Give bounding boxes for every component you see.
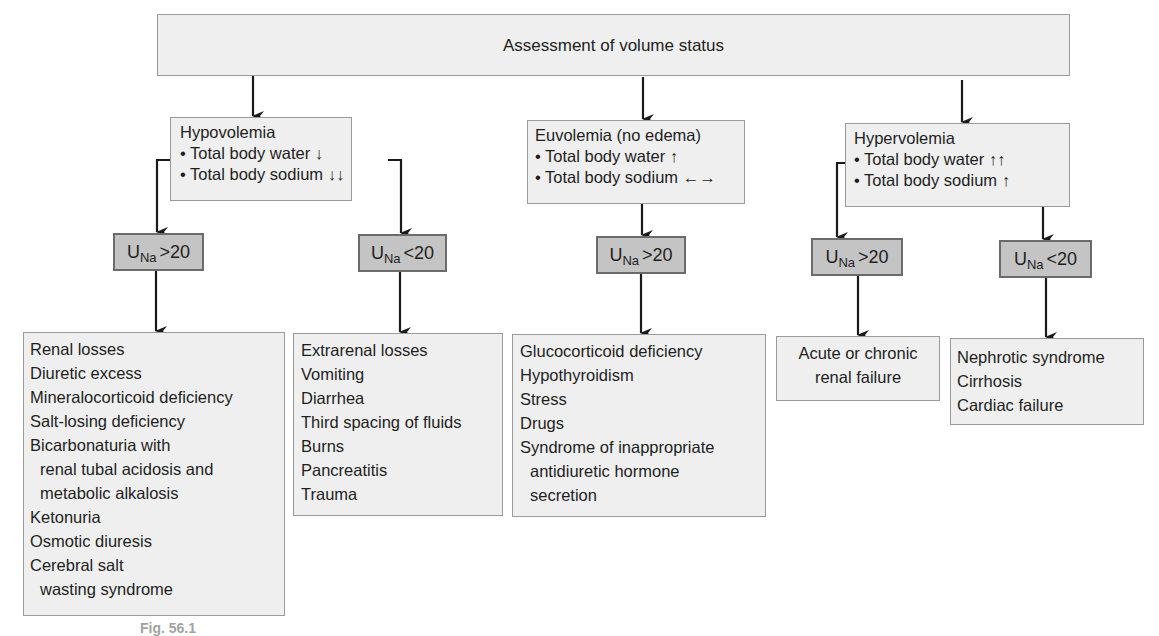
cause-item: Cirrhosis — [957, 369, 1143, 393]
causes-edematous-states: Nephrotic syndrome Cirrhosis Cardiac fai… — [950, 338, 1144, 425]
cause-item: Trauma — [301, 482, 502, 506]
una-label: U — [127, 242, 140, 263]
figure-caption: Fig. 56.1 — [140, 620, 196, 636]
causes-renal-losses: Renal losses Diuretic excess Mineralocor… — [23, 332, 285, 616]
una-condition: >20 — [858, 247, 889, 268]
cause-item: Burns — [301, 434, 502, 458]
una-condition: <20 — [404, 243, 435, 264]
cause-item: Ketonuria — [30, 505, 284, 529]
cause-item: Osmotic diuresis — [30, 529, 284, 553]
una-condition: >20 — [160, 242, 191, 263]
causes-extrarenal-losses: Extrarenal losses Vomiting Diarrhea Thir… — [293, 333, 503, 516]
una-label: U — [609, 245, 622, 266]
urine-sodium-hypervolemia-low: UNa<20 — [999, 240, 1092, 278]
cause-item: wasting syndrome — [30, 577, 284, 601]
una-condition: <20 — [1047, 249, 1078, 270]
cause-item: Cerebral salt — [30, 553, 284, 577]
cause-item: Bicarbonaturia with — [30, 433, 284, 457]
una-subscript: Na — [838, 255, 855, 270]
cause-item: Drugs — [520, 411, 765, 435]
cause-item: Salt-losing deficiency — [30, 409, 284, 433]
urine-sodium-hypervolemia-high: UNa>20 — [811, 238, 903, 276]
una-subscript: Na — [1027, 257, 1044, 272]
cause-item: antidiuretic hormone — [520, 459, 765, 483]
cause-item: Acute or chronic — [777, 341, 939, 365]
una-label: U — [371, 243, 384, 264]
causes-renal-failure: Acute or chronic renal failure — [776, 336, 940, 401]
cause-item: Extrarenal losses — [301, 338, 502, 362]
category-bullet: • Total body water ↑↑ — [854, 149, 1069, 170]
urine-sodium-hypovolemia-low: UNa<20 — [358, 234, 447, 272]
category-title: Hypervolemia — [854, 128, 1069, 149]
category-bullet: • Total body water ↑ — [535, 146, 744, 167]
una-subscript: Na — [384, 251, 401, 266]
urine-sodium-hypovolemia-high: UNa>20 — [113, 233, 204, 271]
una-subscript: Na — [140, 250, 157, 265]
category-hypovolemia: Hypovolemia • Total body water ↓ • Total… — [170, 117, 352, 201]
cause-item: metabolic alkalosis — [30, 481, 284, 505]
cause-item: Hypothyroidism — [520, 363, 765, 387]
category-bullet: • Total body sodium ↑ — [854, 170, 1069, 191]
category-euvolemia: Euvolemia (no edema) • Total body water … — [527, 120, 745, 204]
cause-item: Third spacing of fluids — [301, 410, 502, 434]
cause-item: secretion — [520, 483, 765, 507]
urine-sodium-euvolemia-high: UNa>20 — [596, 236, 686, 274]
root-node-assessment: Assessment of volume status — [157, 14, 1070, 76]
causes-euvolemia: Glucocorticoid deficiency Hypothyroidism… — [512, 334, 766, 517]
cause-item: Vomiting — [301, 362, 502, 386]
category-bullet: • Total body sodium ←→ — [535, 167, 744, 188]
una-label: U — [825, 247, 838, 268]
category-title: Euvolemia (no edema) — [535, 125, 744, 146]
category-bullet: • Total body sodium ↓↓ — [180, 164, 351, 185]
cause-item: Diarrhea — [301, 386, 502, 410]
cause-item: Pancreatitis — [301, 458, 502, 482]
category-hypervolemia: Hypervolemia • Total body water ↑↑ • Tot… — [845, 123, 1070, 207]
cause-item: Nephrotic syndrome — [957, 345, 1143, 369]
category-title: Hypovolemia — [180, 122, 351, 143]
cause-item: Renal losses — [30, 337, 284, 361]
cause-item: Cardiac failure — [957, 393, 1143, 417]
cause-item: Syndrome of inappropriate — [520, 435, 765, 459]
cause-item: Glucocorticoid deficiency — [520, 339, 765, 363]
una-subscript: Na — [622, 253, 639, 268]
cause-item: Stress — [520, 387, 765, 411]
cause-item: Mineralocorticoid deficiency — [30, 385, 284, 409]
category-bullet: • Total body water ↓ — [180, 143, 351, 164]
una-condition: >20 — [642, 245, 673, 266]
cause-item: renal tubal acidosis and — [30, 457, 284, 481]
una-label: U — [1014, 249, 1027, 270]
cause-item: renal failure — [777, 365, 939, 389]
cause-item: Diuretic excess — [30, 361, 284, 385]
root-node-label: Assessment of volume status — [158, 15, 1069, 75]
